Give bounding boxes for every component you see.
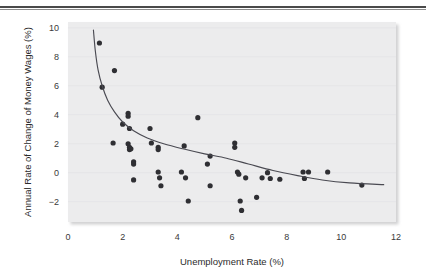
figure-container: 024681012 −20246810 Unemployment Rate (%… xyxy=(0,0,426,275)
scatter-point xyxy=(195,115,200,120)
scatter-point xyxy=(111,140,116,145)
scatter-point xyxy=(157,175,162,180)
scatter-point xyxy=(277,177,282,182)
y-tick-label: 8 xyxy=(54,52,59,62)
scatter-point xyxy=(179,169,184,174)
scatter-point xyxy=(300,169,305,174)
x-tick-label: 0 xyxy=(65,232,70,242)
scatter-point xyxy=(131,177,136,182)
scatter-point xyxy=(243,175,248,180)
scatter-point xyxy=(265,170,270,175)
scatter-point xyxy=(182,143,187,148)
scatter-point xyxy=(205,161,210,166)
x-tick-label: 4 xyxy=(175,232,180,242)
y-tick-label: 2 xyxy=(54,139,59,149)
scatter-point xyxy=(112,68,117,73)
scatter-point xyxy=(306,169,311,174)
scatter-point xyxy=(232,145,237,150)
x-axis-title: Unemployment Rate (%) xyxy=(180,256,284,267)
scatter-point xyxy=(186,198,191,203)
y-tick-label: 10 xyxy=(49,23,59,33)
scatter-point xyxy=(156,169,161,174)
x-tick-label: 2 xyxy=(120,232,125,242)
scatter-point xyxy=(238,198,243,203)
scatter-point xyxy=(325,169,330,174)
scatter-point xyxy=(128,146,133,151)
plot-area-background xyxy=(68,22,396,222)
scatter-point xyxy=(259,175,264,180)
x-tick-label: 6 xyxy=(229,232,234,242)
y-tick-label: −2 xyxy=(49,197,59,207)
y-axis-tick-labels: −20246810 xyxy=(49,23,59,207)
scatter-point xyxy=(254,195,259,200)
scatter-point xyxy=(239,208,244,213)
y-tick-label: 0 xyxy=(54,168,59,178)
scatter-point xyxy=(158,183,163,188)
scatter-point xyxy=(268,176,273,181)
scatter-point xyxy=(156,147,161,152)
scatter-point xyxy=(97,40,102,45)
x-tick-label: 10 xyxy=(336,232,346,242)
phillips-curve-chart: 024681012 −20246810 Unemployment Rate (%… xyxy=(0,0,426,275)
y-tick-label: 6 xyxy=(54,81,59,91)
x-axis-tick-labels: 024681012 xyxy=(65,232,401,242)
x-tick-label: 12 xyxy=(391,232,401,242)
y-tick-label: 4 xyxy=(54,110,59,120)
scatter-point xyxy=(183,175,188,180)
scatter-point xyxy=(131,161,136,166)
scatter-point xyxy=(236,172,241,177)
scatter-point xyxy=(208,183,213,188)
scatter-point xyxy=(126,114,131,119)
scatter-point xyxy=(147,126,152,131)
y-axis-title: Annual Rate of Change of Money Wages (%) xyxy=(22,27,33,217)
scatter-point xyxy=(149,140,154,145)
x-tick-label: 8 xyxy=(284,232,289,242)
